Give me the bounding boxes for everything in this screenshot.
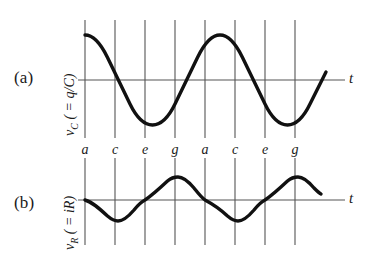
tick-label-g1: g [167, 142, 183, 158]
vc-subscript: C [69, 123, 80, 130]
vr-symbol: v [62, 244, 77, 250]
vr-subscript: R [69, 238, 80, 244]
tick-label-e1: e [137, 142, 153, 158]
vr-expression: ( = iR) [62, 196, 77, 238]
tick-label-a2: a [197, 142, 213, 158]
vc-expression: ( = q/C) [62, 74, 77, 124]
panel-a-tag: (a) [14, 68, 33, 88]
panel-a-y-axis-label: vC ( = q/C) [62, 74, 80, 136]
panel-b-y-axis-label: vR ( = iR) [62, 196, 80, 250]
tick-label-e2: e [257, 142, 273, 158]
panel-b-x-axis-label: t [349, 190, 353, 207]
tick-label-g2: g [287, 142, 303, 158]
tick-label-a1: a [77, 142, 93, 158]
waveform-plot-svg [0, 0, 371, 261]
tick-label-c1: c [107, 142, 123, 158]
panel-a-x-axis-label: t [349, 70, 353, 87]
figure-container: (a) (b) vC ( = q/C) vR ( = iR) t t a c e… [0, 0, 371, 261]
panel-b-tag: (b) [14, 193, 34, 213]
tick-label-c2: c [227, 142, 243, 158]
vc-symbol: v [62, 130, 77, 136]
curve-vr [85, 177, 321, 221]
